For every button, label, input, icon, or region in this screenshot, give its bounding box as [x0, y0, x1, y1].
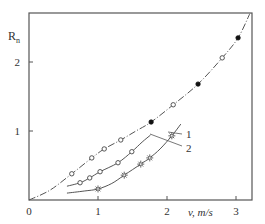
plot-border [29, 13, 252, 200]
annotation-2: 2 [186, 142, 192, 154]
x-axis-label: v, m/s [188, 206, 213, 218]
open-circle-marker [70, 172, 74, 176]
curve-annotations: 12 [150, 128, 192, 154]
data-markers [70, 36, 241, 193]
open-circle-marker [98, 170, 102, 174]
open-circle-marker [102, 147, 106, 151]
filled-circle-marker [236, 36, 240, 40]
star-marker [137, 161, 144, 168]
filled-circle-marker [149, 120, 153, 124]
annotation-1: 1 [186, 128, 192, 140]
y-tick-label: 1 [15, 125, 21, 137]
open-circle-marker [220, 56, 224, 60]
filled-circle-marker [196, 82, 200, 86]
curve-1 [67, 135, 150, 186]
y-tick-label: 2 [15, 56, 21, 68]
open-circle-marker [171, 103, 175, 107]
x-tick-label: 3 [233, 205, 239, 217]
x-tick-label: 0 [26, 205, 32, 217]
data-curves [29, 14, 250, 200]
open-circle-marker [78, 181, 82, 185]
y-axis-label: Rn [8, 29, 20, 45]
x-tick-label: 2 [164, 205, 170, 217]
x-tick-label: 1 [95, 205, 101, 217]
open-circle-marker [116, 161, 120, 165]
chart-canvas: 012312 12 Rn v, m/s [0, 0, 265, 224]
open-circle-marker [88, 176, 92, 180]
open-circle-marker [90, 156, 94, 160]
star-marker [95, 185, 102, 192]
leader-line-2 [150, 134, 182, 146]
open-circle-marker [130, 150, 134, 154]
curve-main [29, 14, 250, 200]
plot-frame [29, 13, 252, 200]
star-marker [121, 172, 128, 179]
open-circle-marker [119, 138, 123, 142]
